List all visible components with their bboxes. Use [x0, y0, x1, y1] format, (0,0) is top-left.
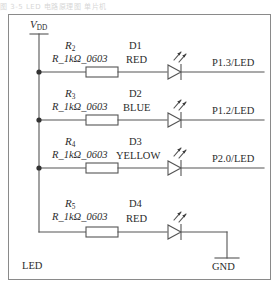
row2-resistor-body	[86, 115, 118, 125]
row3-resistor-body	[86, 163, 118, 173]
schematic-block-title: LED	[22, 261, 42, 272]
row2-net-label: P1.2/LED	[212, 106, 254, 117]
junction-dot-row3	[36, 165, 41, 170]
row4-resistor-value: R_1kΩ_0603	[52, 212, 107, 223]
led-symbol-d2	[168, 100, 186, 128]
row2-resistor-ref: R3	[65, 88, 75, 101]
row3-led-color: YELLOW	[116, 151, 160, 162]
row2-led-ref: D2	[129, 89, 142, 100]
row4-led-ref: D4	[129, 199, 142, 210]
led-symbol-d4	[168, 212, 186, 240]
junction-dot-row1	[36, 69, 41, 74]
row1-led-ref: D1	[129, 41, 142, 52]
row2-resistor-value: R_1kΩ_0603	[52, 102, 107, 113]
vdd-label: VDD	[30, 19, 47, 32]
row3-led-ref: D3	[129, 137, 142, 148]
row1-resistor-ref: R2	[65, 40, 75, 53]
row1-resistor-value: R_1kΩ_0603	[52, 54, 107, 65]
junction-dot-row2	[36, 117, 41, 122]
vdd-subscript: DD	[37, 24, 47, 32]
row1-led-color: RED	[126, 55, 147, 66]
row4-led-color: RED	[126, 214, 147, 225]
row3-resistor-value: R_1kΩ_0603	[52, 150, 107, 161]
led-symbol-d1	[168, 52, 186, 80]
schematic-page: 图 3-5 LED 电路原理图 单片机	[0, 0, 279, 291]
row4-resistor-body	[86, 227, 118, 237]
row3-resistor-ref: R4	[65, 136, 75, 149]
row3-net-label: P2.0/LED	[212, 154, 254, 165]
row4-resistor-ref: R5	[65, 198, 75, 211]
vdd-symbol: V	[30, 18, 37, 30]
gnd-label: GND	[212, 262, 235, 273]
led-symbol-d3	[168, 148, 186, 176]
row2-led-color: BLUE	[123, 103, 150, 114]
row1-net-label: P1.3/LED	[212, 58, 254, 69]
row1-resistor-body	[86, 67, 118, 77]
